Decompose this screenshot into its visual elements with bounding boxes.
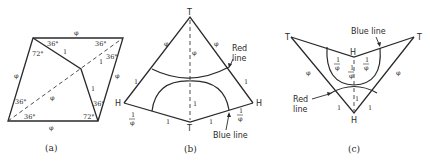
a-angle-bottom-left-lower: 36°	[24, 113, 36, 121]
c-red-line-label-1: Red	[293, 95, 308, 104]
a-lower-segment-label: 1	[91, 85, 95, 93]
c-right-edge-label: φ	[396, 69, 401, 77]
b-right-mid-label: 1	[244, 78, 248, 86]
b-vertex-top: T	[186, 8, 192, 17]
a-right-edge-label: φ	[115, 72, 120, 80]
c-lower-center-label: 1	[355, 95, 359, 103]
b-vertex-bottom: T	[186, 124, 192, 133]
a-angle-bottom-right-lower: 72°	[83, 113, 95, 121]
c-vertex-center: H	[350, 48, 356, 57]
b-center-lower-label: 1	[193, 100, 197, 108]
c-frac-center-num: 1	[350, 64, 354, 72]
c-red-line-arrow	[312, 94, 329, 99]
blue-line-arc	[152, 81, 229, 111]
figure-c: T T H H φ φ 1 φ 1 φ 1 φ 1 1 1 Blue line …	[284, 27, 422, 154]
c-frac-left-num: 1	[336, 56, 340, 64]
c-frac-center: 1 φ	[348, 64, 354, 80]
b-bottom-right-edge-label: 1	[209, 118, 213, 126]
b-upper-left-edge-label: φ	[164, 40, 169, 48]
c-frac-left-den: φ	[335, 64, 340, 72]
b-red-line-label-2: line	[232, 54, 247, 63]
b-right-frac-den: φ	[238, 115, 243, 123]
b-left-fraction: 1 φ	[129, 111, 135, 127]
c-left-edge-label: φ	[306, 69, 311, 77]
a-diag-upper-label: 1	[99, 58, 103, 66]
a-angle-bottom-left-upper: 36°	[15, 98, 27, 106]
a-angle-top-left-lower: 72°	[32, 50, 44, 58]
c-frac-right-den: φ	[364, 64, 369, 72]
b-right-frac-num: 1	[239, 107, 243, 115]
b-red-line-label-1: Red	[232, 44, 247, 53]
b-blue-line-label: Blue line	[213, 131, 248, 140]
figure-a: φ φ φ φ φ 1 1 1 36° 72° 36° 36° 36° 36° …	[8, 29, 123, 153]
b-bottom-left-edge-label: 1	[166, 118, 170, 126]
b-left-mid-label: 1	[134, 78, 138, 86]
c-vertex-bottom: H	[351, 116, 357, 125]
a-upper-segment-label: 1	[63, 48, 67, 56]
a-angle-top-right-lower: 36°	[106, 53, 118, 61]
a-left-edge-label: φ	[14, 72, 19, 80]
b-center-upper-label: φ	[192, 49, 197, 57]
c-blue-arrowhead	[377, 42, 381, 47]
a-angle-bottom-right-upper: 36°	[93, 100, 105, 108]
c-frac-center-den: φ	[349, 72, 354, 80]
diagram-canvas: φ φ φ φ φ 1 1 1 36° 72° 36° 36° 36° 36° …	[0, 0, 430, 162]
c-lower-left-label: 1	[337, 104, 341, 112]
b-right-fraction: 1 φ	[237, 107, 243, 123]
c-red-line-label-2: line	[293, 105, 308, 114]
a-top-edge-label: φ	[74, 29, 79, 37]
a-bottom-edge-label: φ	[49, 124, 54, 132]
b-vertex-right: H	[256, 99, 262, 108]
b-vertex-left: H	[115, 99, 121, 108]
a-diagonal-label: φ	[50, 94, 55, 102]
b-left-frac-den: φ	[130, 119, 135, 127]
kite-lower-edges	[124, 103, 253, 122]
c-blue-line-label: Blue line	[351, 27, 386, 36]
b-left-frac-num: 1	[131, 111, 135, 119]
c-frac-right-num: 1	[365, 56, 369, 64]
c-lower-right-label: 1	[368, 104, 372, 112]
a-angle-top-left-upper: 36°	[47, 40, 59, 48]
b-caption: (b)	[184, 144, 197, 154]
figure-b: T T H H φ φ φ 1 1 1 1 1 1 φ 1 φ Red line…	[115, 8, 262, 154]
c-caption: (c)	[348, 144, 360, 154]
c-frac-left: 1 φ	[334, 56, 340, 72]
c-vertex-left: T	[284, 33, 290, 42]
c-vertex-right: T	[416, 33, 422, 42]
red-line-arc	[152, 67, 229, 78]
a-caption: (a)	[45, 143, 57, 153]
c-frac-right: 1 φ	[363, 56, 369, 72]
b-blue-arrowhead	[227, 112, 231, 117]
b-upper-right-edge-label: φ	[214, 40, 219, 48]
a-angle-top-right-upper: 36°	[95, 40, 107, 48]
